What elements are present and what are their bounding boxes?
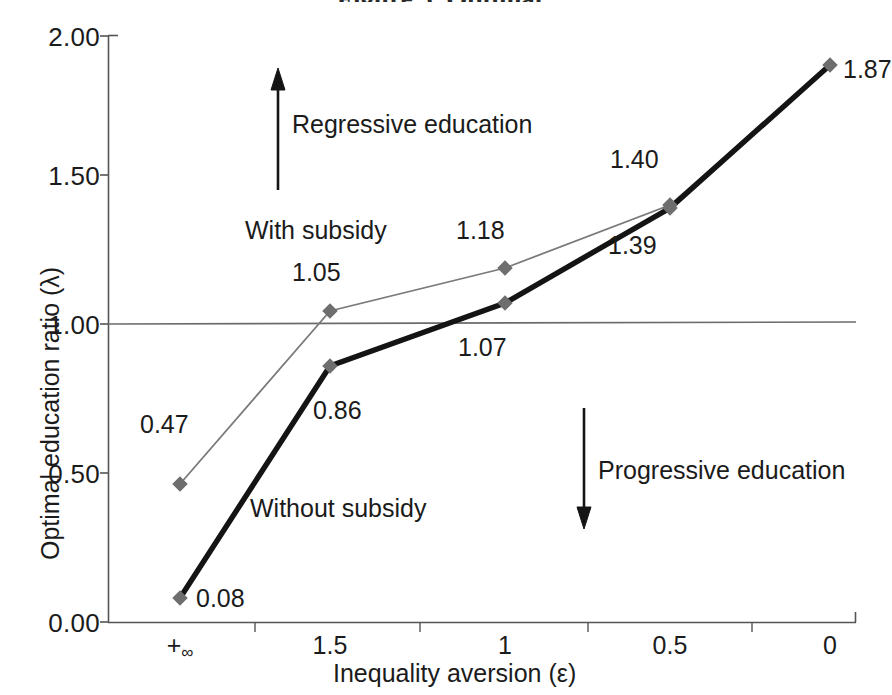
point-label-without-subsidy-0_5: 1.39 [608,231,657,260]
point-label-with-subsidy-1: 1.18 [456,216,505,245]
y-tick-label-0: 0.00 [8,608,100,639]
point-label-shared-0: 1.87 [843,55,892,84]
y-tick-label-1_5: 1.50 [8,161,100,192]
point-label-with-subsidy-1_5: 1.05 [292,258,341,287]
x-tick-label-1_5: 1.5 [270,631,390,660]
reference-line-1 [108,322,856,324]
point-label-without-subsidy-inf: 0.08 [196,584,245,613]
point-label-with-subsidy-inf: 0.47 [140,410,189,439]
x-tick-label-inf: +∞ [120,631,240,663]
y-tick-label-2: 2.00 [8,22,100,53]
x-tick-label-0_5: 0.5 [610,631,730,660]
point-label-without-subsidy-1: 1.07 [458,333,507,362]
y-axis-title: Optimal education ratio (λ) [36,267,65,560]
x-axis-title: Inequality aversion (ε) [333,659,576,688]
regressive-arrow-icon [271,68,285,190]
x-tick-label-0: 0 [770,631,890,660]
point-label-without-subsidy-1_5: 0.86 [313,396,362,425]
y-axis-ticks [100,36,108,622]
annotation-progressive-education: Progressive education [598,456,845,485]
point-label-with-subsidy-0_5: 1.40 [610,145,659,174]
annotation-without-subsidy: Without subsidy [250,494,426,523]
annotation-regressive-education: Regressive education [292,110,532,139]
progressive-arrow-icon [577,408,591,529]
data-point-markers [172,57,838,606]
annotation-with-subsidy: With subsidy [245,216,387,245]
x-tick-label-1: 1 [445,631,565,660]
